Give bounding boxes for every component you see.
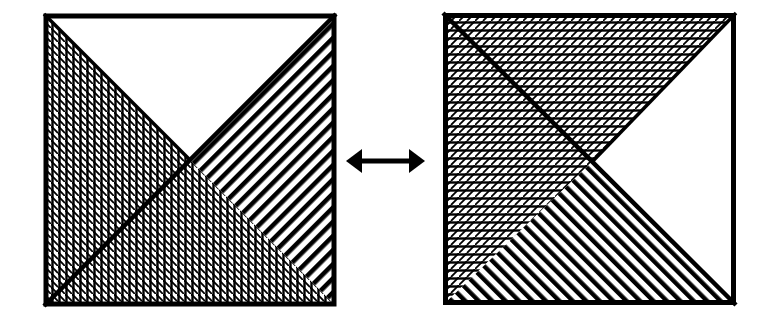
equivalence-diagram	[0, 0, 771, 325]
left-square	[44, 14, 336, 306]
double-headed-arrow-icon	[346, 149, 425, 173]
right-square	[443, 13, 736, 305]
